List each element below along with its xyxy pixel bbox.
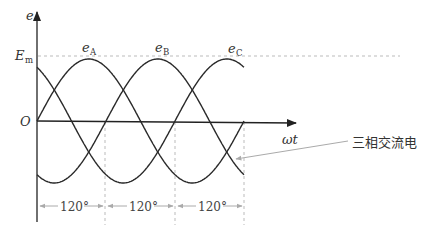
svg-text:e: e (155, 40, 163, 55)
x-axis-label: ωt (282, 132, 299, 147)
svg-text:e: e (82, 40, 90, 55)
callout-label: 三相交流电 (352, 135, 417, 150)
curve-label-a: e A (82, 40, 97, 57)
svg-text:E: E (14, 48, 25, 63)
svg-text:C: C (236, 48, 243, 58)
three-phase-diagram: e O ωt E m e A e B e C 120° 120° 120° 三相… (0, 0, 434, 240)
y-axis-label: e (26, 8, 34, 23)
em-label: E m (14, 48, 33, 65)
svg-text:m: m (25, 55, 33, 65)
origin-label: O (20, 114, 31, 129)
interval-label-2: 120° (129, 200, 158, 214)
interval-label-1: 120° (60, 200, 89, 214)
curve-label-b: e B (155, 40, 169, 57)
x-axis (37, 121, 296, 123)
svg-text:e: e (228, 41, 236, 56)
svg-text:A: A (89, 47, 97, 57)
interval-label-3: 120° (198, 200, 227, 214)
curve-label-c: e C (228, 41, 243, 58)
svg-text:B: B (163, 47, 169, 57)
